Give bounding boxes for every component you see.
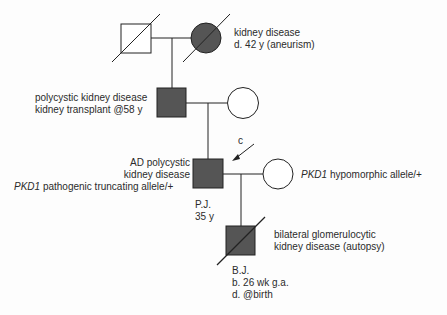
label-line: polycystic kidney disease [35, 92, 147, 104]
genotype-text: pathogenic truncating allele/+ [40, 181, 173, 192]
birth-detail: b. 26 wk g.a. [232, 277, 289, 289]
death-detail: d. @birth [232, 289, 289, 301]
individual-name: P.J. [195, 199, 214, 211]
label-line: kidney disease [234, 27, 315, 39]
genotype-text: hypomorphic allele/+ [327, 169, 422, 180]
pedigree-diagram: kidney disease d. 42 y (aneurism) polycy… [0, 0, 447, 315]
label-line: d. 42 y (aneurism) [234, 39, 315, 51]
gene-name: PKD1 [301, 169, 327, 180]
individual-II-1-male-symbol [157, 88, 186, 117]
individual-II-2-female-symbol [228, 88, 259, 119]
individual-name: B.J. [232, 265, 289, 277]
individual-III-1-male-symbol [193, 159, 223, 188]
label-line: kidney disease [124, 169, 190, 181]
individual-I-2-labels: kidney disease d. 42 y (aneurism) [234, 27, 315, 51]
individual-II-1-labels: polycystic kidney disease kidney transpl… [35, 92, 147, 116]
individual-III-2-female-symbol [263, 159, 293, 189]
gene-name: PKD1 [14, 181, 40, 192]
individual-III-1-labels: AD polycystic kidney disease [124, 157, 190, 181]
label-line: AD polycystic [124, 157, 190, 169]
individual-IV-1-id: B.J. b. 26 wk g.a. d. @birth [232, 265, 289, 301]
label-line: kidney transplant @58 y [35, 104, 147, 116]
individual-III-1-id: P.J. 35 y [195, 199, 214, 223]
individual-age: 35 y [195, 211, 214, 223]
individual-IV-1-labels: bilateral glomerulocytic kidney disease … [274, 229, 385, 253]
label-line: kidney disease (autopsy) [274, 241, 385, 253]
individual-III-2-genotype: PKD1 hypomorphic allele/+ [301, 169, 422, 181]
pedigree-lines [0, 0, 447, 315]
proband-arrow-icon [232, 144, 254, 161]
proband-marker: c [238, 135, 243, 147]
individual-III-1-genotype: PKD1 pathogenic truncating allele/+ [14, 181, 173, 193]
label-line: bilateral glomerulocytic [274, 229, 385, 241]
